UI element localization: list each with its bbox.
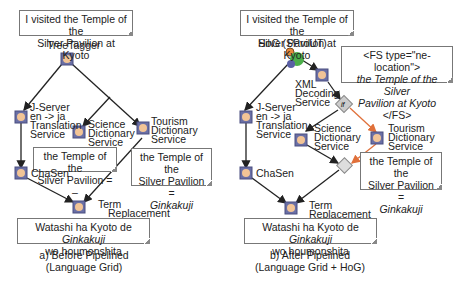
right-caption: b) After Pipelined(Language Grid + HoG) — [250, 249, 370, 273]
left-root-label: TreeTagger — [47, 40, 100, 51]
right-fs-note: <FS type="ne-location"> the Temple of th… — [341, 46, 453, 83]
right-root-label: HoG (SProUT) — [258, 38, 327, 49]
right-tourism-label: TourismDictionaryService — [388, 124, 435, 151]
left-input-note: I visited the Temple of the Silver Pavil… — [19, 10, 133, 36]
right-chasen-label: ChaSen — [256, 168, 294, 179]
right-tourism-result: the Temple of theSilver Pavilion =Ginkak… — [360, 152, 442, 190]
left-science-label: ScienceDictionaryService — [88, 120, 135, 147]
left-term-label: TermReplacement — [98, 200, 170, 218]
left-chasen-label: ChaSen — [31, 168, 69, 179]
left-jserver-label: J-Serveren -> jaTranslationService — [30, 103, 82, 139]
right-input-note: I visited the Temple of theSilver Pavili… — [240, 10, 354, 36]
right-science-label: ScienceDictionaryService — [314, 124, 361, 151]
left-output-note: Watashi ha Kyoto de Ginkakuji wo houmons… — [17, 218, 150, 244]
left-tourism-label: TourismDictionaryService — [151, 117, 198, 144]
left-caption: a) Before Pipelined(Language Grid) — [24, 249, 144, 273]
merge-diamond — [337, 158, 353, 174]
right-output-note: Watashi ha Kyoto de Ginkakuji wo houmons… — [244, 218, 377, 244]
right-term-label: TermReplacement — [309, 201, 371, 219]
right-jserver-label: J-Serveren -> jaTranslationService — [256, 103, 308, 139]
left-tourism-result: the Temple of theSilver Pavilion =Ginkak… — [131, 148, 212, 186]
